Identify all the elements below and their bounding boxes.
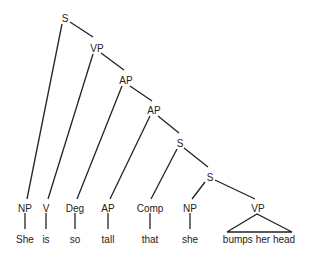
node-np-she2: NP [183,203,197,214]
node-s-2: S [177,138,184,149]
word-she-2: she [182,234,199,245]
node-np-she: NP [18,203,32,214]
edge-s-vp [70,22,93,37]
syntax-tree-diagram: S VP AP AP S S NP V Deg AP Comp NP VP Sh… [0,0,309,258]
node-vp-top: VP [90,43,104,54]
word-she: She [16,234,34,245]
edge-ap-s [158,116,179,133]
edge-s-np2 [192,182,205,199]
word-so: so [70,234,81,245]
edge-ap-aptall [110,116,150,199]
node-s-3: S [207,172,214,183]
edge-s-vp2 [215,180,255,199]
triangle-vp [227,214,292,232]
word-that: that [142,234,159,245]
word-bumps-her-head: bumps her head [223,234,295,245]
node-deg-so: Deg [66,203,84,214]
word-is: is [42,234,49,245]
node-s-root: S [62,13,69,24]
edge-vp-ap [101,53,124,70]
word-tall: tall [102,234,115,245]
node-ap-tall: AP [101,203,115,214]
tree-words: She is so tall that she bumps her head [16,234,295,245]
node-comp-that: Comp [137,203,164,214]
edge-s-s [184,148,208,167]
node-ap-2: AP [147,105,161,116]
node-vp-bumps: VP [251,203,265,214]
node-v-is: V [43,203,50,214]
edge-ap-deg [77,86,122,199]
tree-node-labels: S VP AP AP S S NP V Deg AP Comp NP VP [18,13,265,214]
edge-ap-ap [130,86,152,101]
edge-s-comp [151,149,177,199]
tree-edges [25,22,292,232]
node-ap-1: AP [119,75,133,86]
